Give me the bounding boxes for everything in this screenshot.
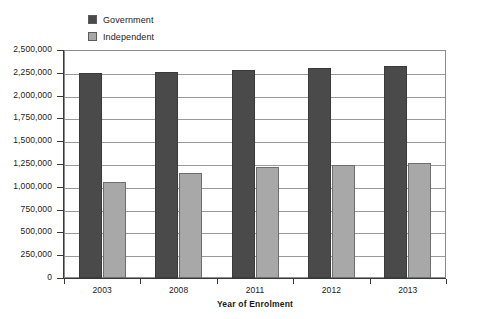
x-axis-title: Year of Enrolment [64,299,446,309]
bar-independent-2012 [332,165,355,278]
x-axis-tick [217,279,218,284]
bar-independent-2008 [179,173,202,278]
y-axis-label: 2,500,000 [13,45,52,54]
bar-government-2011 [232,70,255,278]
y-axis-label: 1,750,000 [13,113,52,122]
legend-label-independent: Independent [103,32,154,42]
bar-government-2003 [79,73,102,278]
x-axis-tick [370,279,371,284]
bar-government-2012 [308,68,331,278]
y-axis-tick [57,278,64,279]
bar-government-2013 [384,66,407,278]
y-axis-label: 750,000 [21,205,52,214]
legend-item-independent: Independent [88,30,154,43]
bar-government-2008 [155,72,178,278]
y-axis-label: 0 [47,273,52,282]
x-axis-tick [446,279,447,284]
y-axis-tick [57,232,64,233]
legend-item-government: Government [88,13,154,26]
y-axis-tick [57,164,64,165]
x-axis-label-2011: 2011 [225,285,285,295]
y-axis-tick [57,141,64,142]
x-axis-line [63,278,446,279]
y-axis-label: 2,000,000 [13,91,52,100]
chart-legend: Government Independent [88,13,154,43]
bar-independent-2013 [408,163,431,278]
legend-label-government: Government [103,15,154,25]
legend-swatch-independent [88,32,97,41]
y-axis-tick [57,73,64,74]
x-axis-label-2013: 2013 [378,285,438,295]
x-axis-label-2012: 2012 [301,285,361,295]
bars-layer [64,50,446,278]
y-axis-tick [57,210,64,211]
x-axis-label-2008: 2008 [149,285,209,295]
y-axis-tick [57,187,64,188]
bar-independent-2003 [103,182,126,278]
y-axis-label: 1,500,000 [13,136,52,145]
bar-independent-2011 [256,167,279,278]
y-axis-tick [57,118,64,119]
x-axis-label-2003: 2003 [72,285,132,295]
y-axis-tick [57,255,64,256]
y-axis-label: 2,250,000 [13,68,52,77]
y-axis-label: 1,000,000 [13,182,52,191]
legend-swatch-government [88,15,97,24]
x-axis-tick [140,279,141,284]
x-axis-tick [64,279,65,284]
y-axis-tick [57,96,64,97]
bar-chart: Government Independent 2,500,0002,250,00… [0,0,480,319]
y-axis-label: 1,250,000 [13,159,52,168]
y-axis-label: 500,000 [21,227,52,236]
x-axis-tick [293,279,294,284]
y-axis-label: 250,000 [21,250,52,259]
y-axis-tick [57,50,64,51]
